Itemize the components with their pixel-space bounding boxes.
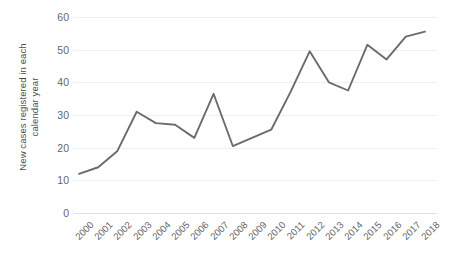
data-series-line: [79, 32, 425, 174]
line-chart: New cases registered in each calendar ye…: [0, 0, 452, 266]
y-axis-tick-label: 60: [47, 11, 69, 23]
y-axis-tick-label: 40: [47, 76, 69, 88]
y-axis-tick-label: 10: [47, 174, 69, 186]
y-axis-tick-label: 0: [47, 207, 69, 219]
y-axis-tick-label: 20: [47, 142, 69, 154]
y-axis-tick-label: 50: [47, 44, 69, 56]
y-axis-tick-label: 30: [47, 109, 69, 121]
